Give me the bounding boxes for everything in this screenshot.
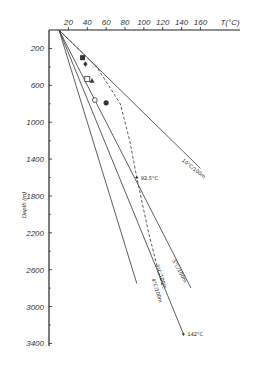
y-tick-1000: 1000 <box>26 118 44 127</box>
series-line <box>59 30 191 288</box>
marker-open-circle <box>92 98 97 103</box>
y-tick-600: 600 <box>31 81 45 90</box>
y-tick-3000: 3000 <box>26 303 44 312</box>
y-tick-2600: 2600 <box>25 266 44 275</box>
y-tick-2200: 2200 <box>25 229 44 238</box>
annotation: 92.5°C <box>141 175 159 181</box>
x-tick-40: 40 <box>83 18 92 27</box>
x-tick-160: 160 <box>194 18 208 27</box>
x-tick-100: 100 <box>137 18 151 27</box>
x-tick-140: 140 <box>175 18 189 27</box>
y-axis-label: Depth (m) <box>21 192 27 219</box>
series-line <box>59 30 184 334</box>
annotation: 5°C/100m <box>171 258 188 283</box>
marker-filled-square <box>80 55 85 60</box>
y-tick-1400: 1400 <box>26 155 44 164</box>
marker-filled-triangle <box>90 78 95 83</box>
series-lines <box>59 30 200 334</box>
x-tick-120: 120 <box>156 18 170 27</box>
depth-temperature-chart: 20406080100120140160 2006001000140018002… <box>0 0 260 367</box>
x-tick-80: 80 <box>121 18 130 27</box>
marker-open-square <box>85 76 90 81</box>
x-tick-20: 20 <box>63 18 73 27</box>
y-tick-1800: 1800 <box>26 192 44 201</box>
x-tick-labels: 20406080100120140160 <box>63 18 208 30</box>
annotation: 142°C <box>187 331 203 337</box>
y-tick-labels: 2006001000140018002200260030003400 <box>25 44 52 348</box>
x-axis-label: T(°C) <box>220 18 240 27</box>
y-tick-3400: 3400 <box>26 339 44 348</box>
marker-open-star: ☆ <box>92 62 98 70</box>
annotations: 10°C/100m5°C/100m3°C/100m4°C/100m92.5°C1… <box>135 157 207 337</box>
axes <box>49 30 240 346</box>
x-tick-60: 60 <box>102 18 111 27</box>
annotation: 10°C/100m <box>181 157 207 180</box>
marker-filled-circle <box>104 100 109 105</box>
y-tick-200: 200 <box>30 44 45 53</box>
marker-filled-diamond <box>83 62 87 67</box>
